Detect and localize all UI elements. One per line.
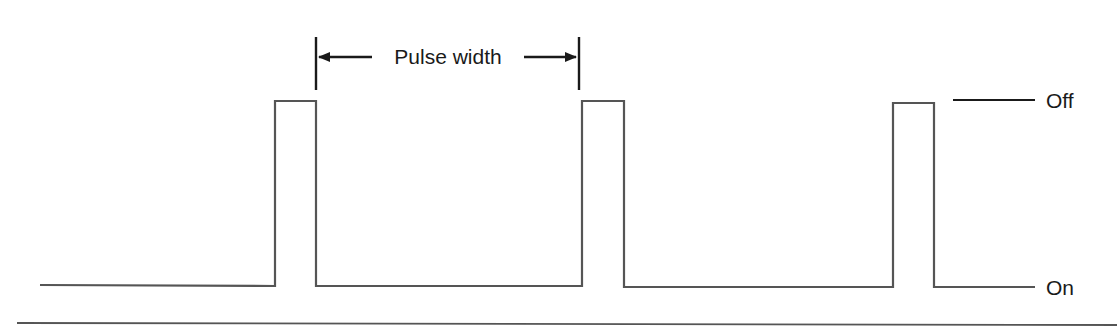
pwm-diagram: Pulse width Off On [0, 0, 1117, 329]
bottom-rule [17, 323, 1117, 325]
pulse-waveform [40, 101, 1035, 287]
pulse-width-label: Pulse width [394, 45, 501, 68]
off-level-label: Off [1046, 89, 1074, 112]
on-level-label: On [1046, 276, 1074, 299]
